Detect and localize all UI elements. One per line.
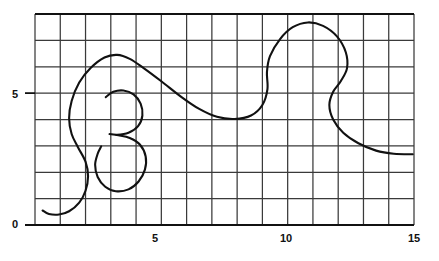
x-axis-tick-label-10: 10 (280, 233, 292, 244)
plot-canvas (0, 0, 439, 261)
x-axis-tick-label-15: 15 (408, 233, 420, 244)
y-axis-tick-label-0: 0 (12, 219, 18, 230)
main-curve-path (43, 22, 413, 214)
figure-container: 5 0 5 10 15 (0, 0, 439, 261)
curve-path-group (43, 22, 413, 214)
inner-three-loop-path (95, 90, 146, 191)
x-axis-tick-label-5: 5 (152, 233, 158, 244)
y-axis-tick-label-5: 5 (12, 89, 18, 100)
